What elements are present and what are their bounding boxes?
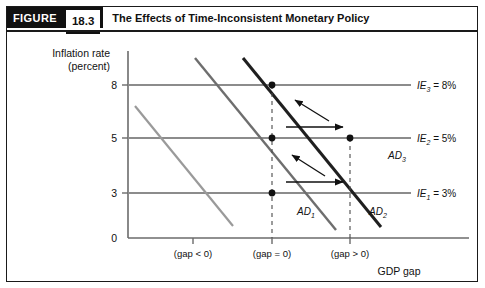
arrow-up-left-upper bbox=[295, 100, 329, 121]
ie1-label: IE1 = 3% bbox=[417, 188, 456, 201]
equilibrium-dot-gap0-3 bbox=[269, 190, 276, 197]
y-tick-label-5: 5 bbox=[111, 132, 117, 144]
equilibrium-dot-gap0-8 bbox=[269, 82, 276, 89]
figure-header: FIGURE 18.3 The Effects of Time-Inconsis… bbox=[7, 7, 477, 28]
x-tick-label-gap-zero: (gap = 0) bbox=[253, 248, 291, 259]
x-tick-label-gap-negative: (gap < 0) bbox=[174, 248, 212, 259]
ie2-label: IE2 = 5% bbox=[417, 133, 456, 146]
figure-badge-label: FIGURE bbox=[7, 7, 63, 28]
y-tick-label-8: 8 bbox=[111, 79, 117, 91]
figure-title: The Effects of Time-Inconsistent Monetar… bbox=[103, 7, 369, 28]
arrow-up-left-lower bbox=[292, 155, 325, 176]
y-axis-label-line1: Inflation rate bbox=[52, 47, 110, 59]
ie3-label: IE3 = 8% bbox=[417, 80, 456, 93]
ad1-line bbox=[135, 106, 233, 226]
y-tick-label-3: 3 bbox=[111, 187, 117, 199]
ad1-label: AD1 bbox=[296, 206, 315, 219]
chart-canvas: Inflation rate (percent) 8 5 3 0 (gap < … bbox=[7, 31, 477, 281]
equilibrium-dot-gappos-5 bbox=[347, 135, 354, 142]
ad3-label: AD3 bbox=[387, 150, 406, 163]
x-axis-label: GDP gap bbox=[378, 265, 421, 277]
equilibrium-dot-gap0-5 bbox=[269, 135, 276, 142]
y-tick-label-0: 0 bbox=[111, 232, 117, 244]
y-axis-label-line2: (percent) bbox=[68, 60, 110, 72]
figure-root: FIGURE 18.3 The Effects of Time-Inconsis… bbox=[0, 0, 485, 288]
x-tick-label-gap-positive: (gap > 0) bbox=[331, 248, 369, 259]
ad2-label: AD2 bbox=[368, 206, 387, 219]
